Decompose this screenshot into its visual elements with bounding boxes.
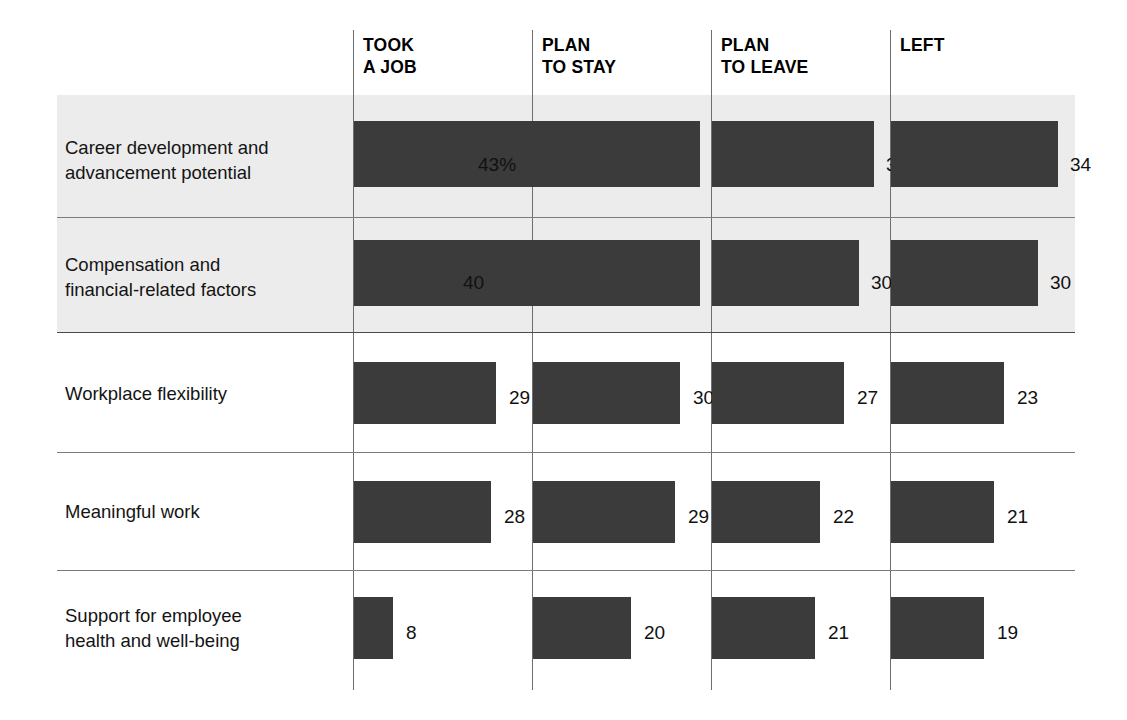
bar-row1-left <box>891 121 1058 187</box>
bar-row2-plan-to-stay <box>533 240 700 306</box>
bar-row1-plan-to-leave <box>712 121 874 187</box>
column-header-left: LEFT <box>900 34 945 56</box>
value-row3-plan-to-stay: 30 <box>693 388 714 407</box>
row-label-career-development: Career development and advancement poten… <box>65 136 345 185</box>
value-row3-plan-to-leave: 27 <box>857 388 878 407</box>
row-label-support-health-wellbeing: Support for employee health and well-bei… <box>65 604 345 653</box>
row-separator-1 <box>57 217 1075 218</box>
row-separator-3 <box>57 452 1075 453</box>
value-row3-took-a-job: 29 <box>509 388 530 407</box>
value-row1-took-a-job: 43% <box>478 155 516 174</box>
value-row5-took-a-job: 8 <box>406 623 417 642</box>
bar-row3-plan-to-stay <box>533 362 680 424</box>
value-row5-left: 19 <box>997 623 1018 642</box>
value-row2-left: 30 <box>1050 273 1071 292</box>
value-row4-left: 21 <box>1007 507 1028 526</box>
bar-row5-plan-to-leave <box>712 597 815 659</box>
value-row4-plan-to-stay: 29 <box>688 507 709 526</box>
chart-canvas: TOOK A JOB PLAN TO STAY PLAN TO LEAVE LE… <box>0 0 1127 720</box>
bar-row5-took-a-job <box>354 597 393 659</box>
column-header-plan-to-stay: PLAN TO STAY <box>542 34 616 78</box>
value-row3-left: 23 <box>1017 388 1038 407</box>
column-header-plan-to-leave: PLAN TO LEAVE <box>721 34 809 78</box>
row-label-meaningful-work: Meaningful work <box>65 500 345 525</box>
bar-row2-took-a-job <box>354 240 550 306</box>
value-row2-plan-to-leave: 30 <box>871 273 892 292</box>
bar-row5-left <box>891 597 984 659</box>
value-row4-plan-to-leave: 22 <box>833 507 854 526</box>
bar-row4-plan-to-leave <box>712 481 820 543</box>
row-label-workplace-flexibility: Workplace flexibility <box>65 382 345 407</box>
value-row5-plan-to-stay: 20 <box>644 623 665 642</box>
bar-row4-left <box>891 481 994 543</box>
row-separator-4 <box>57 570 1075 571</box>
bar-row2-left <box>891 240 1038 306</box>
row-separator-2 <box>57 332 1075 333</box>
value-row4-took-a-job: 28 <box>504 507 525 526</box>
bar-row5-plan-to-stay <box>533 597 631 659</box>
value-row2-took-a-job: 40 <box>463 273 484 292</box>
bar-row4-took-a-job <box>354 481 491 543</box>
bar-row3-plan-to-leave <box>712 362 844 424</box>
bar-row3-left <box>891 362 1004 424</box>
bar-row4-plan-to-stay <box>533 481 675 543</box>
bar-row3-took-a-job <box>354 362 496 424</box>
bar-row2-plan-to-leave <box>712 240 859 306</box>
value-row1-left: 34 <box>1070 155 1091 174</box>
row-label-compensation: Compensation and financial-related facto… <box>65 253 345 302</box>
bar-row1-plan-to-stay <box>533 121 700 187</box>
column-header-took-a-job: TOOK A JOB <box>363 34 417 78</box>
value-row5-plan-to-leave: 21 <box>828 623 849 642</box>
